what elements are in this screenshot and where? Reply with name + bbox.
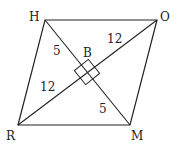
segment-length-label: 5 xyxy=(99,102,107,116)
vertex-label-R: R xyxy=(6,129,16,143)
diagram-canvas: HOMRB 512125 xyxy=(0,0,180,148)
rhombus-diagram: HOMRB 512125 xyxy=(0,0,180,148)
vertex-label-M: M xyxy=(131,129,143,143)
vertex-label-B: B xyxy=(83,46,92,60)
vertex-label-H: H xyxy=(29,10,39,24)
segment-length-label: 12 xyxy=(40,80,55,94)
segment-length-label: 12 xyxy=(107,32,122,46)
segment-length-label: 5 xyxy=(53,44,61,58)
vertex-label-O: O xyxy=(160,10,170,24)
diagonal-RO xyxy=(18,20,157,125)
